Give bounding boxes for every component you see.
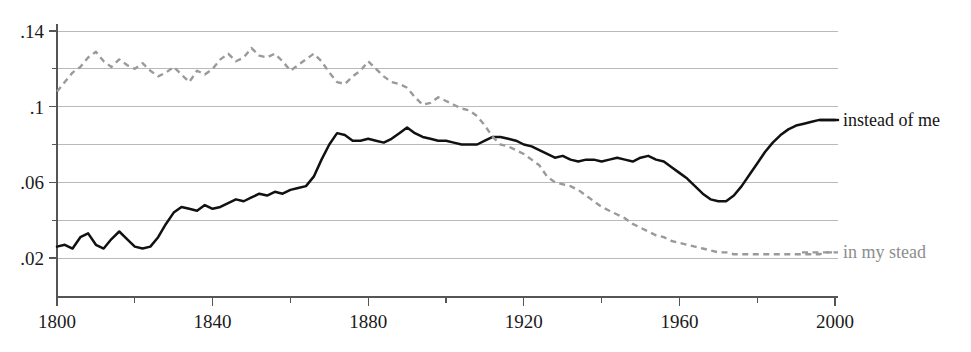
x-tick-label: 2000 bbox=[816, 311, 854, 332]
tick-marks bbox=[49, 31, 835, 306]
plot-area: .02.06.1.14 180018401880192019602000 ins… bbox=[0, 0, 971, 352]
y-tick-label: .14 bbox=[20, 21, 44, 42]
y-axis-tick-labels: .02.06.1.14 bbox=[20, 21, 44, 269]
axes bbox=[57, 24, 838, 297]
x-tick-label: 1880 bbox=[349, 311, 387, 332]
x-tick-label: 1840 bbox=[194, 311, 232, 332]
series-line-solid bbox=[57, 120, 835, 249]
y-tick-label: .02 bbox=[20, 248, 44, 269]
line-chart-figure: .02.06.1.14 180018401880192019602000 ins… bbox=[0, 0, 971, 352]
legend-label-instead-of-me: instead of me bbox=[843, 110, 940, 130]
y-tick-label: .06 bbox=[20, 172, 44, 193]
data-series bbox=[57, 48, 835, 254]
x-tick-label: 1920 bbox=[505, 311, 543, 332]
y-tick-label: .1 bbox=[30, 97, 44, 118]
legend-label-in-my-stead: in my stead bbox=[843, 242, 926, 262]
x-tick-label: 1960 bbox=[660, 311, 698, 332]
x-tick-label: 1800 bbox=[38, 311, 76, 332]
x-axis-tick-labels: 180018401880192019602000 bbox=[38, 311, 854, 332]
legend: instead of mein my stead bbox=[802, 110, 940, 262]
gridlines bbox=[57, 31, 838, 258]
series-line-dashed bbox=[57, 48, 835, 254]
